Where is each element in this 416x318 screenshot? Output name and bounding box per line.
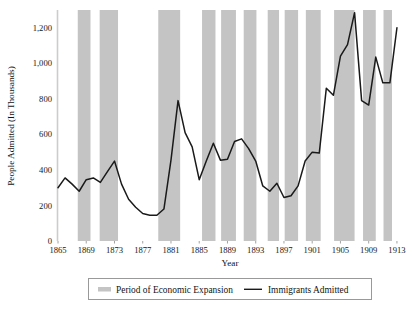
x-tick-label: 1909	[360, 245, 377, 255]
expansion-band	[285, 10, 298, 241]
expansion-band	[221, 10, 236, 241]
x-tick-label: 1869	[78, 245, 95, 255]
x-tick-label: 1873	[106, 245, 123, 255]
x-tick-label: 1865	[49, 245, 66, 255]
y-tick-label: 800	[39, 94, 52, 104]
figure-container: 02004006008001,0001,200 1865186918731877…	[0, 0, 416, 318]
x-axis-title: Year	[222, 258, 239, 268]
immigration-line-chart: 02004006008001,0001,200 1865186918731877…	[0, 0, 416, 318]
legend-label-expansion: Period of Economic Expansion	[116, 285, 233, 295]
expansion-band	[202, 10, 215, 241]
expansion-band	[334, 10, 354, 241]
expansion-band	[78, 10, 91, 241]
expansion-band	[268, 10, 279, 241]
x-tick-label: 1901	[304, 245, 321, 255]
y-tick-label: 200	[39, 201, 52, 211]
y-tick-label: 1,200	[33, 23, 52, 33]
x-tick-label: 1905	[332, 245, 349, 255]
y-tick-label: 600	[39, 129, 52, 139]
y-tick-label: 400	[39, 165, 52, 175]
x-tick-label: 1897	[275, 245, 293, 255]
legend-swatch-expansion	[98, 287, 111, 292]
expansion-band	[384, 10, 392, 241]
x-tick-label: 1885	[191, 245, 208, 255]
x-tick-label: 1877	[134, 245, 152, 255]
expansion-band	[306, 10, 321, 241]
y-axis-title: People Admitted (In Thousands)	[6, 66, 16, 186]
x-tick-label: 1913	[388, 245, 405, 255]
expansion-band	[363, 10, 376, 241]
chart-legend: Period of Economic Expansion Immigrants …	[89, 279, 372, 300]
expansion-band	[158, 10, 180, 241]
expansion-band	[100, 10, 118, 241]
x-tick-label: 1889	[219, 245, 236, 255]
y-tick-label: 1,000	[33, 58, 52, 68]
expansion-band	[244, 10, 257, 241]
legend-label-immigrants: Immigrants Admitted	[268, 285, 349, 295]
x-tick-label: 1881	[162, 245, 179, 255]
x-tick-label: 1893	[247, 245, 264, 255]
